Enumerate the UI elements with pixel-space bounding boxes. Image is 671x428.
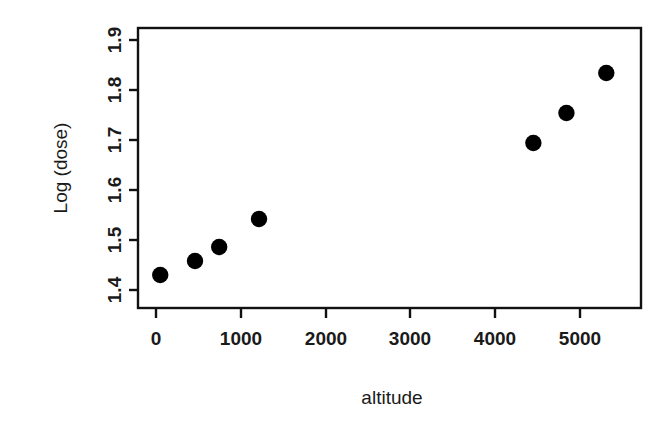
- x-axis-title: altitude: [361, 387, 422, 408]
- data-point: [211, 239, 227, 255]
- y-tick-label-3: 1.7: [104, 127, 125, 153]
- x-tick-label-4: 4000: [474, 328, 516, 349]
- plot-background: [0, 0, 671, 428]
- y-tick-label-4: 1.8: [104, 77, 125, 103]
- x-tick-label-5: 5000: [559, 328, 601, 349]
- x-tick-label-0: 0: [151, 328, 162, 349]
- y-tick-label-5: 1.9: [104, 27, 125, 53]
- y-axis-title: Log (dose): [50, 123, 71, 214]
- plot-canvas: 1.4 1.5 1.6 1.7 1.8 1.9 Log (dose) 0 100…: [0, 0, 671, 428]
- x-tick-label-1: 1000: [220, 328, 262, 349]
- data-point: [525, 135, 541, 151]
- y-tick-label-0: 1.4: [104, 276, 125, 303]
- data-point: [152, 267, 168, 283]
- data-point: [598, 65, 614, 81]
- x-tick-label-2: 2000: [305, 328, 347, 349]
- y-tick-label-1: 1.5: [104, 226, 125, 253]
- x-tick-label-3: 3000: [389, 328, 431, 349]
- data-point: [187, 253, 203, 269]
- data-point: [558, 105, 574, 121]
- data-point: [251, 211, 267, 227]
- y-tick-label-2: 1.6: [104, 177, 125, 203]
- scatter-plot-figure: 1.4 1.5 1.6 1.7 1.8 1.9 Log (dose) 0 100…: [0, 0, 671, 428]
